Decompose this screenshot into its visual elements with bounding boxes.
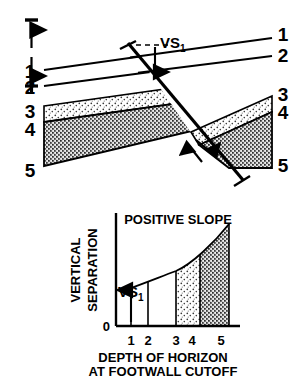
graph-panel: VS1 POSITIVE SLOPE 0 VERTICAL SEPARATION… <box>68 212 240 379</box>
figure-root: VS1 1 2 3 4 5 1 2 3 4 5 VS1 POSITIVE S <box>0 0 298 380</box>
right-horizon-label-5: 5 <box>278 155 289 176</box>
graph-tick-label-5: 5 <box>217 333 224 348</box>
graph-y-axis-label-line2: SEPARATION <box>85 228 100 311</box>
graph-y-origin-label: 0 <box>103 319 110 334</box>
graph-tick-label-4: 4 <box>188 333 196 348</box>
right-horizon-label-4: 4 <box>278 102 289 123</box>
graph-tick-label-2: 2 <box>144 333 151 348</box>
left-horizon-label-5: 5 <box>25 160 36 181</box>
right-horizon-label-1: 1 <box>278 24 289 45</box>
graph-tick-label-1: 1 <box>127 333 134 348</box>
graph-x-axis-label-line1: DEPTH OF HORIZON <box>98 350 227 365</box>
graph-title: POSITIVE SLOPE <box>124 212 232 227</box>
cross-section-panel: VS1 1 2 3 4 5 1 2 3 4 5 <box>25 20 289 186</box>
right-horizon-label-2: 2 <box>278 45 289 66</box>
left-horizon-label-4: 4 <box>25 119 36 140</box>
graph-region-4-5 <box>200 224 229 326</box>
graph-tick-label-3: 3 <box>172 333 179 348</box>
left-horizon-label-2: 2 <box>25 77 36 98</box>
figure-svg: VS1 1 2 3 4 5 1 2 3 4 5 VS1 POSITIVE S <box>0 0 298 380</box>
graph-y-axis-label-line1: VERTICAL <box>68 237 83 302</box>
graph-x-axis-label-line2: AT FOOTWALL CUTOFF <box>89 364 238 379</box>
